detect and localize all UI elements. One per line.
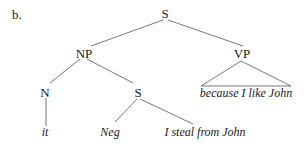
edge-np-s	[87, 59, 133, 83]
node-np: NP	[76, 46, 93, 61]
vp-triangle	[201, 61, 291, 86]
example-label: b.	[12, 7, 22, 22]
leaf-i-steal-from-john: I steal from John	[163, 125, 245, 139]
edge-s-vp	[168, 20, 243, 46]
syntax-tree-diagram: b. S NP VP N S because I like John it Ne…	[0, 0, 305, 149]
node-vp: VP	[234, 46, 251, 61]
leaf-because-i-like-john: because I like John	[200, 86, 292, 100]
edge-np-n	[50, 59, 80, 83]
node-s-root: S	[161, 6, 168, 21]
leaf-neg: Neg	[99, 125, 119, 139]
node-n: N	[40, 85, 50, 100]
edge-s-neg	[115, 99, 137, 122]
edge-s-clause	[140, 99, 193, 124]
node-s-embedded: S	[134, 85, 141, 100]
tree-nodes: S NP VP N S because I like John it Neg I…	[40, 6, 292, 139]
tree-edges	[46, 20, 291, 126]
leaf-it: it	[42, 125, 49, 139]
edge-s-np	[91, 20, 163, 46]
